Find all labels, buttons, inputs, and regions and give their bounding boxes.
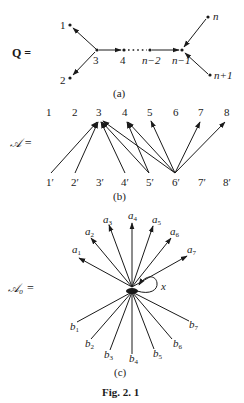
top-label-7: 7 <box>198 106 204 118</box>
top-label-5: 5 <box>147 106 153 118</box>
vertex-label-n: n <box>213 10 219 22</box>
graph-a0-label: 𝒜₀ = <box>8 281 34 295</box>
label-b5: b5 <box>153 347 163 361</box>
vertex-label-n-2: n−2 <box>142 54 161 66</box>
edge-to-a2 <box>91 238 132 287</box>
edge-6p-to-3 <box>103 121 175 173</box>
top-label-6: 6 <box>173 106 179 118</box>
label-a6: a6 <box>170 225 180 239</box>
bottom-label-2p: 2′ <box>71 176 79 188</box>
bottom-label-4p: 4′ <box>121 176 129 188</box>
label-b3: b3 <box>104 348 114 362</box>
figure-canvas: Q = 1 2 3 4 n−2 n−1 n n+1 (a) 𝒜 = 1 2 <box>0 0 244 403</box>
vertex-n-1 <box>180 48 183 51</box>
bottom-label-8p: 8′ <box>223 176 231 188</box>
edge-6p-to-5 <box>151 121 175 173</box>
label-b2: b2 <box>85 337 95 351</box>
label-a5: a5 <box>152 213 162 227</box>
vertex-4 <box>122 48 125 51</box>
edge-b5 <box>132 292 154 349</box>
bottom-label-6p: 6′ <box>172 176 180 188</box>
label-a1: a1 <box>72 243 82 257</box>
top-label-1: 1 <box>46 106 52 118</box>
panel-b-graph: 𝒜 = 1 2 3 4 5 6 7 8 1′ 2′ 3′ 4′ 5′ 6′ 7′… <box>10 106 231 203</box>
vertex-label-2: 2 <box>60 74 66 86</box>
vertex-2 <box>68 76 71 79</box>
edge-to-a5 <box>132 226 153 287</box>
panel-a-caption: (a) <box>113 87 126 100</box>
label-a3: a3 <box>103 213 113 227</box>
edge-b2 <box>91 292 132 339</box>
edge-b3 <box>110 292 132 350</box>
edge-6p-to-8 <box>175 122 225 173</box>
top-label-2: 2 <box>72 106 78 118</box>
label-b4: b4 <box>129 352 139 366</box>
loop-x-edge <box>137 277 157 293</box>
edge-4p-to-3 <box>101 122 125 173</box>
edge-b6 <box>132 292 172 339</box>
label-a4: a4 <box>128 209 138 223</box>
vertex-n-2 <box>148 48 151 51</box>
figure-caption: Fig. 2. 1 <box>102 386 139 398</box>
top-label-8: 8 <box>224 106 230 118</box>
panel-a-quiver: Q = 1 2 3 4 n−2 n−1 n n+1 (a) <box>12 10 232 100</box>
bottom-label-3p: 3′ <box>96 176 104 188</box>
edge-5p-to-3 <box>102 122 149 173</box>
vertex-label-1: 1 <box>60 19 66 31</box>
edge-3-to-2 <box>73 52 95 75</box>
label-a7: a7 <box>187 243 197 257</box>
vertex-label-4: 4 <box>120 54 126 66</box>
vertex-label-3: 3 <box>93 54 99 66</box>
top-label-4: 4 <box>122 106 128 118</box>
edge-b7 <box>132 292 189 321</box>
edge-1p-to-3 <box>51 122 97 173</box>
panel-c-star: 𝒜₀ = x a1 a2 a3 a4 a5 a6 a7 b1 b2 b3 <box>8 209 199 379</box>
loop-label-x: x <box>160 280 166 292</box>
edge-2p-to-3 <box>75 122 98 173</box>
label-b6: b6 <box>173 337 183 351</box>
panel-c-caption: (c) <box>114 366 127 379</box>
vertex-n+1 <box>208 73 211 76</box>
edge-to-a1 <box>79 258 132 287</box>
label-b1: b1 <box>70 320 80 334</box>
vertex-1 <box>68 23 71 26</box>
bottom-label-1p: 1′ <box>46 176 54 188</box>
bottom-label-7p: 7′ <box>198 176 206 188</box>
edge-3-to-1 <box>73 28 96 49</box>
label-b7: b7 <box>189 318 199 332</box>
label-a2: a2 <box>85 225 95 239</box>
vertex-label-n+1: n+1 <box>214 69 232 81</box>
edge-n-to-n-1 <box>184 19 206 47</box>
edge-to-a7 <box>132 256 187 287</box>
edge-to-a3 <box>109 225 132 287</box>
edge-5p-to-4 <box>127 122 149 173</box>
quiver-q-label: Q = <box>12 46 31 60</box>
panel-b-caption: (b) <box>113 190 126 203</box>
graph-a-label: 𝒜 = <box>10 136 32 150</box>
vertex-n <box>206 15 209 18</box>
vertex-label-n-1: n−1 <box>172 54 190 66</box>
edge-6p-to-4 <box>128 122 175 173</box>
bottom-label-5p: 5′ <box>146 176 154 188</box>
edge-6p-to-7 <box>175 122 200 173</box>
top-label-3: 3 <box>96 106 102 118</box>
edge-b1 <box>77 292 132 322</box>
